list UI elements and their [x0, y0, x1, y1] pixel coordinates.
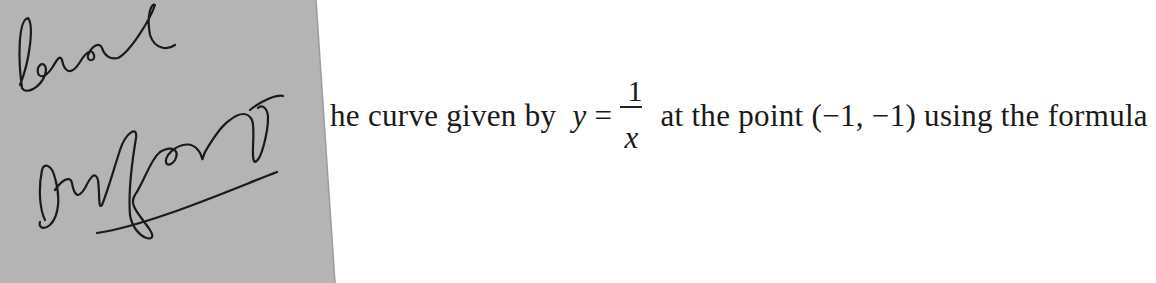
math-equals: = — [595, 98, 613, 133]
fraction-denominator: x — [624, 120, 638, 156]
math-lhs: y — [572, 98, 586, 133]
text-after-math: at the point (−1, −1) using the formula — [660, 98, 1147, 133]
gray-paper-shape — [0, 0, 335, 283]
text-before-math: he curve given by — [330, 98, 556, 133]
problem-text-line: he curve given by y = 1 x at the point (… — [330, 98, 1148, 134]
math-expression: y = 1 x — [564, 98, 660, 133]
math-fraction: 1 x — [618, 116, 648, 126]
handwritten-paper-overlay — [0, 0, 345, 283]
fraction-numerator: 1 — [627, 74, 642, 108]
fraction-bar — [620, 106, 642, 108]
